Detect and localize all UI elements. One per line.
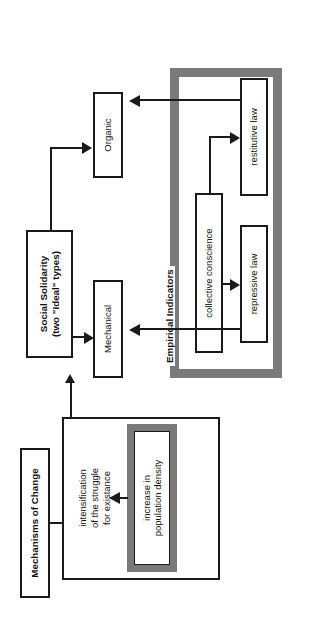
node-population-density: increase in population density (134, 431, 170, 565)
arrow-restitutive-to-organic (129, 95, 140, 107)
density-line-1: increase in (141, 475, 152, 521)
arrow-solidarity-to-mechanical (84, 332, 94, 344)
diagram-stage: Mechanisms of Change intensification of … (0, 0, 316, 628)
struggle-line-2: of the struggle (89, 468, 100, 528)
connector-repressive-to-mechanical-v (140, 328, 240, 330)
solidarity-label-line-2: (two "Ideal" types) (50, 251, 61, 337)
solidarity-label-line-1: Social Solidarity (38, 256, 49, 332)
group-label-empirical-indicators: Empirical Indicators (164, 266, 175, 366)
arrow-mechanisms-to-mechanical (65, 374, 75, 383)
arrow-repressive-to-mechanical (129, 324, 140, 336)
connector-solidarity-to-organic-h (50, 148, 52, 230)
node-organic: Organic (93, 92, 123, 178)
arrow-density-to-struggle (109, 492, 120, 504)
struggle-line-1: intensification (77, 469, 88, 527)
connector-cc-to-restitutive-v (209, 136, 231, 138)
connector-cc-to-restitutive-h (209, 137, 211, 193)
arrow-solidarity-to-organic (82, 142, 92, 154)
diagram-canvas: Mechanisms of Change intensification of … (0, 0, 316, 628)
arrow-cc-to-repressive (230, 279, 240, 291)
node-repressive-law: repressive law (240, 225, 268, 343)
connector-mechanisms-to-mechanical (70, 381, 72, 417)
connector-label-to-mechanisms (50, 522, 63, 524)
group-label-social-solidarity: Social Solidarity (two "Ideal" types) (26, 230, 73, 358)
connector-solidarity-to-organic-v (50, 147, 82, 149)
density-line-2: population density (152, 460, 163, 537)
group-label-mechanisms-of-change: Mechanisms of Change (20, 448, 50, 598)
node-restitutive-law: restitutive law (240, 78, 268, 196)
node-mechanical: Mechanical (93, 280, 123, 378)
arrow-cc-to-restitutive (230, 132, 240, 144)
population-density-frame: increase in population density (127, 424, 177, 572)
connector-restitutive-to-organic-v (140, 99, 240, 101)
